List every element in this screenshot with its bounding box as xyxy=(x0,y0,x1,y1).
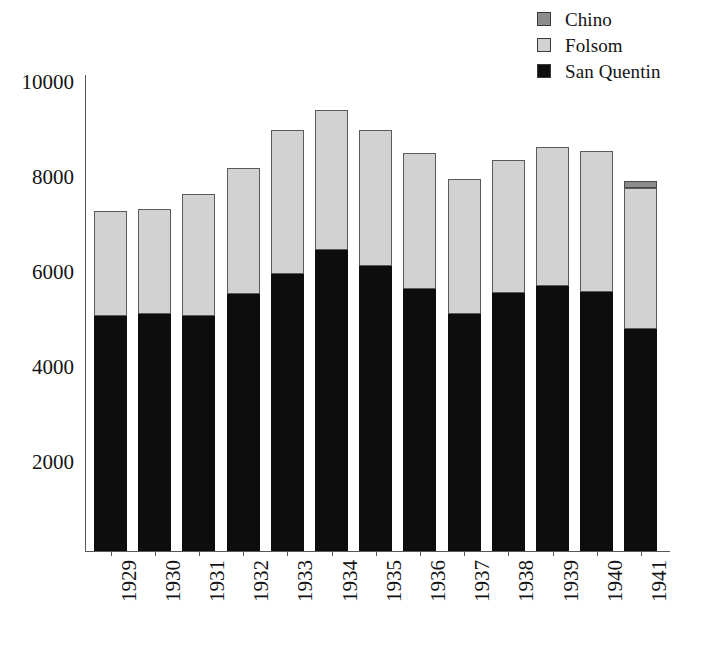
bar-segment-san-quentin-1938[interactable] xyxy=(492,293,525,551)
bar-1936[interactable] xyxy=(403,151,436,551)
bar-segment-folsom-1938[interactable] xyxy=(492,160,525,293)
y-tick-label-10000: 10000 xyxy=(22,72,75,93)
bar-segment-folsom-1931[interactable] xyxy=(182,194,215,316)
y-tick-label-8000: 8000 xyxy=(32,167,74,188)
legend-label-folsom: Folsom xyxy=(565,36,623,55)
plot-area xyxy=(85,75,670,552)
x-tick-label-1931: 1931 xyxy=(207,560,228,602)
bar-1937[interactable] xyxy=(448,177,481,551)
bar-segment-folsom-1941[interactable] xyxy=(624,188,657,329)
bar-segment-san-quentin-1932[interactable] xyxy=(227,294,260,551)
bar-1940[interactable] xyxy=(580,149,613,551)
bar-segment-san-quentin-1939[interactable] xyxy=(536,286,569,551)
bar-segment-chino-1941[interactable] xyxy=(624,181,657,188)
bar-segment-san-quentin-1940[interactable] xyxy=(580,292,613,551)
bar-segment-folsom-1935[interactable] xyxy=(359,130,392,265)
bar-segment-folsom-1936[interactable] xyxy=(403,153,436,289)
x-tick-1939 xyxy=(553,552,554,556)
bar-segment-folsom-1939[interactable] xyxy=(536,147,569,286)
x-tick-label-1930: 1930 xyxy=(163,560,184,602)
x-tick-1934 xyxy=(332,552,333,556)
bar-1935[interactable] xyxy=(359,128,392,551)
x-tick-label-1932: 1932 xyxy=(251,560,272,602)
y-axis-labels: 10000 8000 6000 4000 2000 xyxy=(0,0,85,649)
bar-segment-folsom-1932[interactable] xyxy=(227,168,260,293)
bar-segment-folsom-1940[interactable] xyxy=(580,151,613,292)
bar-1932[interactable] xyxy=(227,166,260,551)
bar-segment-san-quentin-1934[interactable] xyxy=(315,250,348,551)
bar-segment-folsom-1933[interactable] xyxy=(271,130,304,273)
x-tick-1929 xyxy=(111,552,112,556)
legend-item-folsom[interactable]: Folsom xyxy=(537,32,717,58)
bar-segment-san-quentin-1929[interactable] xyxy=(94,316,127,551)
x-tick-1935 xyxy=(376,552,377,556)
bar-segment-san-quentin-1933[interactable] xyxy=(271,274,304,551)
x-tick-label-1929: 1929 xyxy=(119,560,140,602)
bar-1941[interactable] xyxy=(624,179,657,551)
x-tick-label-1939: 1939 xyxy=(561,560,582,602)
x-tick-1941 xyxy=(641,552,642,556)
bar-segment-folsom-1934[interactable] xyxy=(315,110,348,250)
bar-1929[interactable] xyxy=(94,209,127,551)
x-tick-1938 xyxy=(508,552,509,556)
x-tick-label-1937: 1937 xyxy=(472,560,493,602)
x-tick-label-1935: 1935 xyxy=(384,560,405,602)
bar-segment-folsom-1930[interactable] xyxy=(138,209,171,314)
bar-1930[interactable] xyxy=(138,207,171,551)
x-tick-label-1938: 1938 xyxy=(516,560,537,602)
x-tick-label-1936: 1936 xyxy=(428,560,449,602)
y-tick-label-4000: 4000 xyxy=(32,357,74,378)
bar-segment-san-quentin-1937[interactable] xyxy=(448,314,481,551)
bar-1934[interactable] xyxy=(315,108,348,551)
x-tick-1931 xyxy=(199,552,200,556)
x-tick-1932 xyxy=(243,552,244,556)
x-tick-1940 xyxy=(597,552,598,556)
legend-label-chino: Chino xyxy=(565,10,612,29)
stacked-bar-chart: Chino Folsom San Quentin 10000 8000 6000… xyxy=(0,0,719,649)
bar-segment-san-quentin-1930[interactable] xyxy=(138,314,171,551)
x-tick-1936 xyxy=(420,552,421,556)
x-tick-1933 xyxy=(287,552,288,556)
bar-segment-folsom-1929[interactable] xyxy=(94,211,127,316)
bar-segment-san-quentin-1941[interactable] xyxy=(624,329,657,551)
legend-swatch-folsom xyxy=(537,38,551,52)
y-tick-label-2000: 2000 xyxy=(32,452,74,473)
bar-segment-san-quentin-1936[interactable] xyxy=(403,289,436,551)
x-tick-label-1933: 1933 xyxy=(295,560,316,602)
bar-segment-folsom-1937[interactable] xyxy=(448,179,481,314)
x-tick-label-1941: 1941 xyxy=(649,560,670,602)
chart-legend: Chino Folsom San Quentin xyxy=(537,6,717,84)
y-tick-label-6000: 6000 xyxy=(32,262,74,283)
bar-1931[interactable] xyxy=(182,192,215,551)
legend-item-chino[interactable]: Chino xyxy=(537,6,717,32)
x-axis-labels: 1929193019311932193319341935193619371938… xyxy=(85,552,685,649)
bar-segment-san-quentin-1935[interactable] xyxy=(359,266,392,551)
x-tick-label-1940: 1940 xyxy=(605,560,626,602)
bar-segment-san-quentin-1931[interactable] xyxy=(182,316,215,551)
bar-1933[interactable] xyxy=(271,128,304,551)
bar-1938[interactable] xyxy=(492,158,525,551)
bar-1939[interactable] xyxy=(536,145,569,551)
bar-group xyxy=(85,75,670,552)
x-tick-1930 xyxy=(155,552,156,556)
x-tick-label-1934: 1934 xyxy=(340,560,361,602)
x-tick-1937 xyxy=(464,552,465,556)
legend-swatch-chino xyxy=(537,12,551,26)
